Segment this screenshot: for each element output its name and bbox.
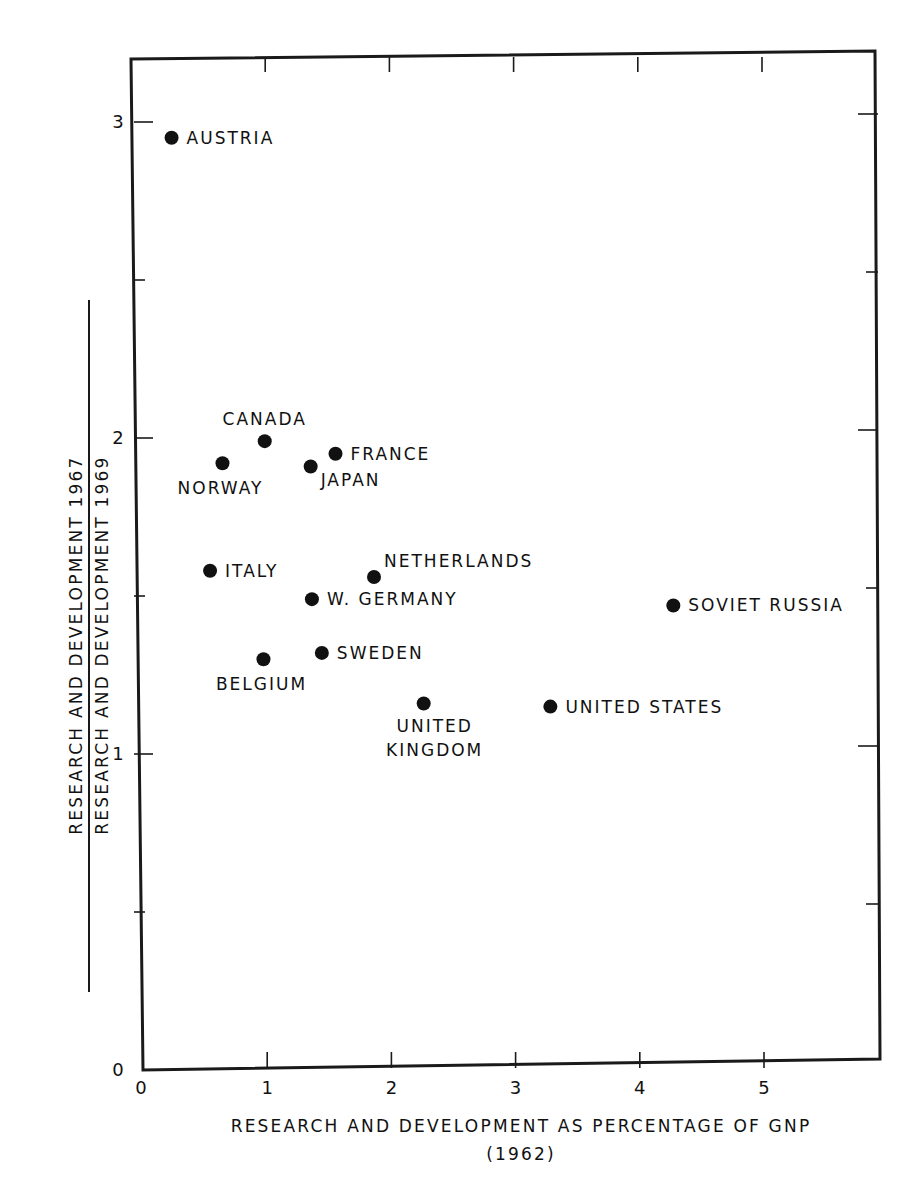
data-point: FRANCE xyxy=(329,444,431,464)
point-label: BELGIUM xyxy=(216,674,307,694)
point-label: SWEDEN xyxy=(337,643,424,663)
point-marker xyxy=(666,598,680,612)
point-marker xyxy=(215,456,229,470)
data-point: CANADA xyxy=(223,409,307,448)
scatter-chart: 0123450123 AUSTRIACANADANORWAYJAPANFRANC… xyxy=(0,0,912,1179)
point-label: ITALY xyxy=(225,561,278,581)
data-point: SWEDEN xyxy=(315,643,424,663)
y-tick-label: 2 xyxy=(112,427,123,448)
x-tick-label: 5 xyxy=(758,1077,769,1098)
data-point: BELGIUM xyxy=(216,652,307,694)
data-point: UNITED STATES xyxy=(543,697,723,717)
point-label: NORWAY xyxy=(178,478,264,498)
data-point: AUSTRIA xyxy=(165,128,275,148)
data-point: NETHERLANDS xyxy=(367,551,533,584)
point-marker xyxy=(304,459,318,473)
point-marker xyxy=(417,696,431,710)
point-marker xyxy=(305,592,319,606)
point-marker xyxy=(315,646,329,660)
point-marker xyxy=(543,700,557,714)
y-tick-label: 0 xyxy=(112,1059,123,1080)
data-point: JAPAN xyxy=(304,459,381,490)
y-tick-label: 1 xyxy=(112,743,123,764)
y-axis-title: RESEARCH AND DEVELOPMENT 1967 RESEARCH A… xyxy=(66,300,112,992)
y-tick-label: 3 xyxy=(112,111,123,132)
point-label: KINGDOM xyxy=(386,740,483,760)
point-label: SOVIET RUSSIA xyxy=(688,595,844,615)
point-label: NETHERLANDS xyxy=(384,551,533,571)
point-label: UNITED STATES xyxy=(565,697,723,717)
data-point: ITALY xyxy=(203,561,278,581)
y-axis-numerator: RESEARCH AND DEVELOPMENT 1967 xyxy=(66,455,86,834)
point-marker xyxy=(329,447,343,461)
point-marker xyxy=(203,564,217,578)
data-point: W. GERMANY xyxy=(305,589,458,609)
y-axis-denominator: RESEARCH AND DEVELOPMENT 1969 xyxy=(92,455,112,834)
point-marker xyxy=(165,131,179,145)
point-marker xyxy=(367,570,381,584)
point-label: CANADA xyxy=(223,409,307,429)
x-tick-label: 0 xyxy=(135,1077,146,1098)
data-point: UNITEDKINGDOM xyxy=(386,696,483,760)
x-axis-title: RESEARCH AND DEVELOPMENT AS PERCENTAGE O… xyxy=(231,1116,812,1136)
point-label: FRANCE xyxy=(351,444,431,464)
data-point: SOVIET RUSSIA xyxy=(666,595,844,615)
point-marker xyxy=(258,434,272,448)
x-tick-label: 1 xyxy=(261,1077,272,1098)
data-point: NORWAY xyxy=(178,456,264,498)
x-tick-label: 4 xyxy=(634,1077,645,1098)
x-tick-label: 2 xyxy=(386,1077,397,1098)
x-axis-subtitle: (1962) xyxy=(486,1144,556,1164)
point-label: W. GERMANY xyxy=(327,589,458,609)
data-points: AUSTRIACANADANORWAYJAPANFRANCEITALYNETHE… xyxy=(165,128,844,761)
point-marker xyxy=(256,652,270,666)
x-tick-label: 3 xyxy=(510,1077,521,1098)
point-label: UNITED xyxy=(396,716,472,736)
point-label: AUSTRIA xyxy=(187,128,275,148)
point-label: JAPAN xyxy=(320,470,381,490)
